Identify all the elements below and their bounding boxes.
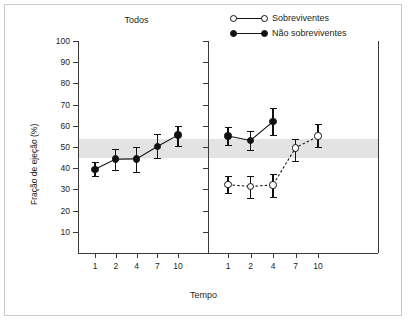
x-tick-label-0-10: 10 xyxy=(169,262,187,271)
y-tick-0-50 xyxy=(73,147,78,148)
data-point-1-1-0 xyxy=(224,181,231,188)
x-tick-label-1-1: 1 xyxy=(219,262,237,271)
y-tick-0-70 xyxy=(73,105,78,106)
y-tick-0-60 xyxy=(73,126,78,127)
error-cap-high-0-0-3 xyxy=(154,134,161,135)
x-tick-label-0-7: 7 xyxy=(148,262,166,271)
error-cap-low-0-0-0 xyxy=(92,176,99,177)
series-connector-lines xyxy=(0,0,407,321)
y-tick-0-100 xyxy=(73,41,78,42)
x-tick-0-2 xyxy=(116,253,117,258)
x-tick-0-4 xyxy=(137,253,138,258)
y-tick-0-80 xyxy=(73,83,78,84)
x-tick-1-4 xyxy=(273,253,274,258)
data-point-1-1-4 xyxy=(314,132,321,139)
data-point-1-0-0 xyxy=(224,132,231,139)
error-cap-low-1-1-1 xyxy=(247,198,254,199)
error-cap-high-1-1-2 xyxy=(270,174,277,175)
error-cap-low-1-1-4 xyxy=(315,147,322,148)
y-tick-0-10 xyxy=(73,232,78,233)
data-point-0-0-2 xyxy=(133,155,140,162)
x-tick-0-1 xyxy=(95,253,96,258)
error-cap-low-1-1-2 xyxy=(270,197,277,198)
y-axis-panel-0 xyxy=(78,41,79,253)
y-tick-0-30 xyxy=(73,189,78,190)
panel-right-edge xyxy=(378,41,379,253)
error-cap-low-1-1-0 xyxy=(225,193,232,194)
y-tick-label-100: 100 xyxy=(48,37,70,46)
error-cap-low-1-0-2 xyxy=(270,135,277,136)
data-point-0-0-4 xyxy=(174,131,181,138)
data-point-1-1-1 xyxy=(247,183,254,190)
error-cap-low-1-1-3 xyxy=(292,161,299,162)
error-cap-low-0-0-1 xyxy=(112,170,119,171)
error-cap-low-0-0-4 xyxy=(175,146,182,147)
x-tick-1-1 xyxy=(228,253,229,258)
y-tick-label-60: 60 xyxy=(48,122,70,131)
data-point-1-0-2 xyxy=(269,118,276,125)
x-tick-label-0-1: 1 xyxy=(86,262,104,271)
error-cap-high-1-1-0 xyxy=(225,176,232,177)
y-tick-1-60 xyxy=(203,126,208,127)
error-cap-high-1-0-0 xyxy=(225,127,232,128)
plot-area: 102030405060708090100124710124710 xyxy=(0,0,407,321)
error-cap-low-1-0-0 xyxy=(225,145,232,146)
chart-figure: Sobreviventes Não sobreviventes Todos Fr… xyxy=(0,0,407,321)
x-tick-1-10 xyxy=(318,253,319,258)
x-tick-1-7 xyxy=(296,253,297,258)
y-tick-label-10: 10 xyxy=(48,228,70,237)
y-tick-label-50: 50 xyxy=(48,143,70,152)
x-tick-0-10 xyxy=(178,253,179,258)
y-tick-1-70 xyxy=(203,105,208,106)
y-tick-label-20: 20 xyxy=(48,207,70,216)
error-cap-high-0-0-1 xyxy=(112,149,119,150)
y-tick-1-30 xyxy=(203,189,208,190)
y-tick-0-20 xyxy=(73,211,78,212)
error-cap-high-0-0-2 xyxy=(133,147,140,148)
y-tick-0-40 xyxy=(73,168,78,169)
x-tick-label-1-10: 10 xyxy=(309,262,327,271)
x-tick-label-0-4: 4 xyxy=(128,262,146,271)
y-tick-1-90 xyxy=(203,62,208,63)
y-tick-1-20 xyxy=(203,211,208,212)
x-tick-0-7 xyxy=(157,253,158,258)
x-tick-label-1-4: 4 xyxy=(264,262,282,271)
y-tick-0-90 xyxy=(73,62,78,63)
x-tick-label-1-7: 7 xyxy=(287,262,305,271)
error-cap-high-1-1-4 xyxy=(315,124,322,125)
data-point-0-0-1 xyxy=(112,155,119,162)
y-tick-label-90: 90 xyxy=(48,58,70,67)
error-cap-high-1-0-2 xyxy=(270,108,277,109)
y-tick-1-100 xyxy=(203,41,208,42)
y-tick-1-80 xyxy=(203,83,208,84)
error-cap-high-1-1-1 xyxy=(247,176,254,177)
x-tick-1-2 xyxy=(251,253,252,258)
y-tick-1-40 xyxy=(203,168,208,169)
error-cap-low-0-0-3 xyxy=(154,158,161,159)
y-tick-label-40: 40 xyxy=(48,164,70,173)
error-cap-high-0-0-0 xyxy=(92,162,99,163)
y-tick-label-30: 30 xyxy=(48,185,70,194)
y-axis-panel-1 xyxy=(208,41,209,253)
error-cap-high-1-1-3 xyxy=(292,139,299,140)
error-cap-high-1-0-1 xyxy=(247,131,254,132)
data-point-1-1-3 xyxy=(292,144,299,151)
y-tick-label-80: 80 xyxy=(48,79,70,88)
error-cap-low-0-0-2 xyxy=(133,172,140,173)
x-tick-label-0-2: 2 xyxy=(107,262,125,271)
y-tick-label-70: 70 xyxy=(48,101,70,110)
error-cap-low-1-0-1 xyxy=(247,150,254,151)
error-cap-high-0-0-4 xyxy=(175,126,182,127)
y-tick-1-10 xyxy=(203,232,208,233)
data-point-0-0-0 xyxy=(91,166,98,173)
x-tick-label-1-2: 2 xyxy=(242,262,260,271)
y-tick-1-50 xyxy=(203,147,208,148)
data-point-1-1-2 xyxy=(269,181,276,188)
